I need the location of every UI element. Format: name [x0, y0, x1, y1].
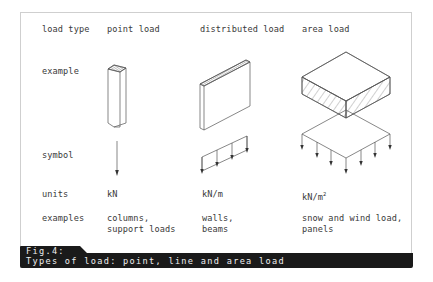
- area-load-arrows-icon: [300, 110, 391, 174]
- drawings: [0, 0, 433, 282]
- figure-caption-text: Types of load: point, line and area load: [26, 256, 285, 266]
- line-load-arrows-icon: [200, 136, 248, 174]
- column-icon: [108, 65, 126, 127]
- figure-caption: Fig.4: Types of load: point, line and ar…: [20, 246, 413, 268]
- point-load-arrow-icon: [115, 141, 119, 176]
- slab-icon: [302, 52, 390, 118]
- wall-icon: [200, 60, 250, 130]
- figure-label: Fig.4:: [26, 246, 65, 256]
